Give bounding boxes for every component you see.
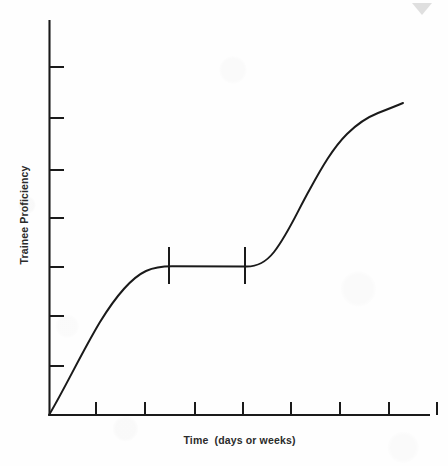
- learning-curve-chart: [0, 0, 448, 466]
- axes-group: [49, 20, 431, 416]
- x-axis-ticks: [96, 402, 437, 415]
- learning-curve-path: [49, 103, 403, 415]
- x-axis-label: Time (days or weeks): [49, 434, 430, 446]
- y-axis-label: Trainee Proficiency: [18, 125, 30, 305]
- figure-page: Trainee Proficiency Time (days or weeks): [0, 0, 448, 466]
- y-axis-ticks: [49, 67, 64, 366]
